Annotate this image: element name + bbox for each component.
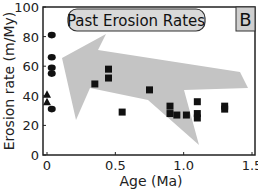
circle-data-point [48, 106, 56, 113]
square-data-point [183, 112, 190, 119]
circle-data-point [48, 70, 56, 77]
square-data-point [194, 115, 201, 122]
y-tick-label: 80 [22, 30, 39, 45]
triangle-data-point [43, 90, 51, 98]
x-tick-label: 0 [43, 158, 51, 173]
y-axis-ticks: 020406080100 [14, 0, 46, 163]
panel-label: B [239, 9, 251, 30]
x-axis-label: Age (Ma) [119, 173, 182, 189]
x-tick-label: 1.5 [242, 158, 258, 173]
square-data-point [105, 75, 112, 82]
trend-arrow-shape [62, 34, 248, 145]
square-data-point [173, 112, 180, 119]
circle-data-point [48, 54, 56, 61]
square-data-point [105, 66, 112, 73]
y-axis-label: Erosion rate (m/My) [1, 12, 17, 150]
x-tick-label: 0.5 [105, 158, 126, 173]
x-tick-label: 1.0 [173, 158, 194, 173]
circle-data-point [48, 32, 56, 39]
square-data-point [194, 98, 201, 105]
y-tick-label: 100 [14, 0, 39, 15]
square-data-point [167, 110, 174, 117]
erosion-rate-chart: 020406080100 00.51.01.5 Past Erosion Rat… [0, 0, 258, 190]
triangle-data-point [43, 98, 51, 106]
square-data-point [91, 80, 98, 87]
square-data-point [119, 109, 126, 116]
circle-data-point [48, 64, 56, 71]
square-data-point [221, 106, 228, 113]
square-data-point [167, 103, 174, 110]
y-tick-label: 40 [22, 89, 39, 104]
y-tick-label: 20 [22, 118, 39, 133]
y-tick-label: 60 [22, 59, 39, 74]
y-tick-label: 0 [31, 148, 39, 163]
chart-title: Past Erosion Rates [67, 12, 205, 30]
square-data-point [146, 86, 153, 93]
